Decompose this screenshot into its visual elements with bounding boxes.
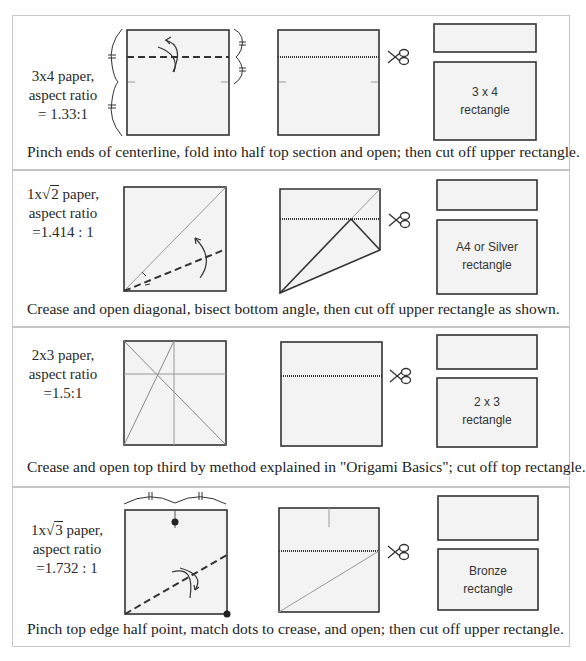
result-type: rectangle xyxy=(434,101,536,119)
aspect-ratio-heading: aspect ratio xyxy=(18,365,108,384)
panel-3-caption: Crease and open top third by method expl… xyxy=(27,458,586,476)
panel-1-paper-label: 3x4 paper, aspect ratio = 1.33:1 xyxy=(18,67,108,124)
paper-size: 2x3 paper, xyxy=(18,346,108,365)
size-suffix: paper, xyxy=(59,186,99,202)
size-prefix: 1x xyxy=(27,186,42,202)
panel-2-caption: Crease and open diagonal, bisect bottom … xyxy=(27,300,560,318)
aspect-ratio-value: =1.732 : 1 xyxy=(22,559,112,578)
result-type: rectangle xyxy=(437,411,537,429)
panel-4-step1-square xyxy=(124,492,231,618)
panel-3-paper-label: 2x3 paper, aspect ratio =1.5:1 xyxy=(18,346,108,403)
panel-3-results xyxy=(437,335,537,447)
scissors-icon xyxy=(388,50,409,65)
radicand: 3 xyxy=(54,521,63,538)
size-prefix: 1x xyxy=(31,522,46,538)
result-type: rectangle xyxy=(437,256,537,274)
scissors-icon xyxy=(390,369,411,384)
aspect-ratio-value: =1.414 : 1 xyxy=(18,223,108,242)
scissors-icon xyxy=(388,545,409,560)
dot-marker-icon xyxy=(172,519,179,526)
panel-1-result-label: 3 x 4 rectangle xyxy=(434,83,536,119)
panel-3-result-label: 2 x 3 rectangle xyxy=(437,393,537,429)
panel-1-step2-square xyxy=(278,30,379,135)
aspect-ratio-heading: aspect ratio xyxy=(22,540,112,559)
result-size: A4 or Silver xyxy=(437,238,537,256)
panel-3-step2-square xyxy=(281,342,382,446)
paper-size: 1x√2 paper, xyxy=(18,185,108,204)
result-size: Bronze xyxy=(438,562,538,580)
aspect-ratio-heading: aspect ratio xyxy=(18,204,108,223)
panel-3-step1-square xyxy=(124,341,226,445)
panel-2-step1-square xyxy=(124,187,226,291)
panel-4-result-label: Bronze rectangle xyxy=(438,562,538,598)
panel-4-paper-label: 1x√3 paper, aspect ratio =1.732 : 1 xyxy=(22,521,112,578)
result-size: 2 x 3 xyxy=(437,393,537,411)
result-type: rectangle xyxy=(438,580,538,598)
result-size: 3 x 4 xyxy=(434,83,536,101)
paper-size: 3x4 paper, xyxy=(18,67,108,86)
radicand: 2 xyxy=(50,185,59,202)
dot-marker-icon xyxy=(224,611,231,618)
paper-size: 1x√3 paper, xyxy=(22,521,112,540)
aspect-ratio-value: = 1.33:1 xyxy=(18,105,108,124)
scissors-icon xyxy=(389,213,410,228)
sqrt-symbol: √3 xyxy=(46,521,63,540)
size-suffix: paper, xyxy=(63,522,103,538)
panel-1-step1-square xyxy=(108,29,246,136)
panel-2-paper-label: 1x√2 paper, aspect ratio =1.414 : 1 xyxy=(18,185,108,242)
aspect-ratio-value: =1.5:1 xyxy=(18,384,108,403)
panel-2-step2-shape xyxy=(280,189,380,293)
panel-2-result-label: A4 or Silver rectangle xyxy=(437,238,537,274)
panel-4-step2-square xyxy=(279,508,379,612)
aspect-ratio-heading: aspect ratio xyxy=(18,86,108,105)
sqrt-symbol: √2 xyxy=(42,185,59,204)
panel-4-caption: Pinch top edge half point, match dots to… xyxy=(27,620,564,638)
panel-2-results xyxy=(437,180,537,294)
panel-1-caption: Pinch ends of centerline, fold into half… xyxy=(27,143,580,161)
panel-1-results xyxy=(434,24,536,140)
